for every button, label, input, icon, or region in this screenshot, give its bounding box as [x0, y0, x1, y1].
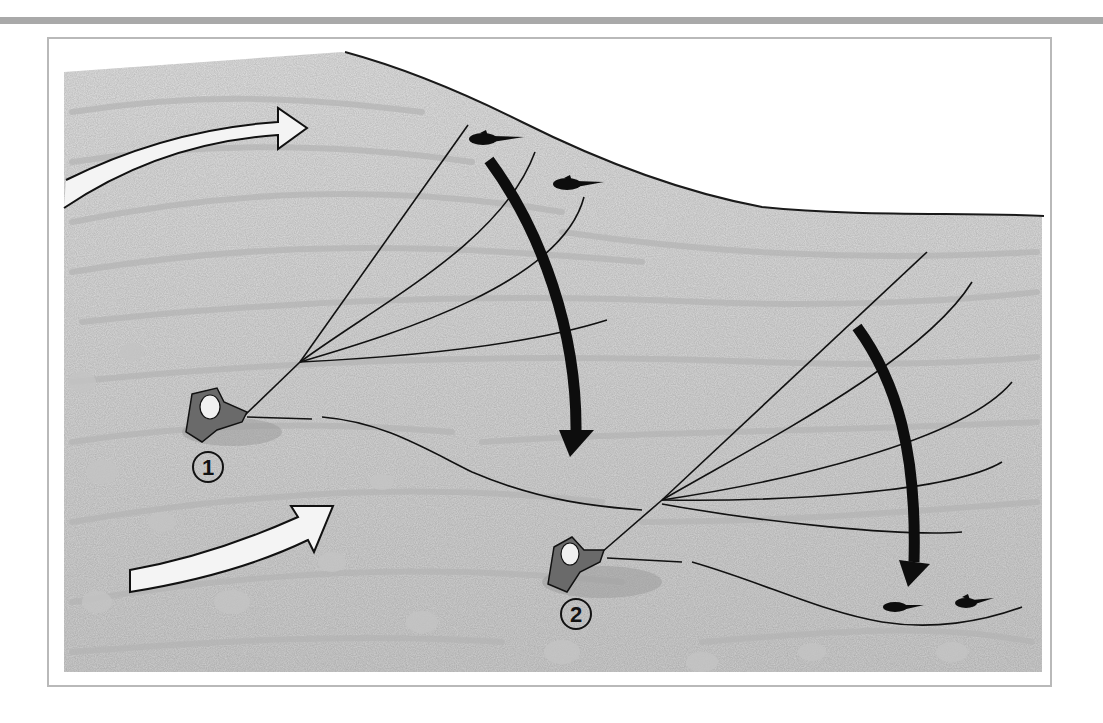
marker-label-1: 1 [202, 455, 214, 480]
top-rule [0, 17, 1103, 24]
river-illustration: 1 2 [49, 39, 1052, 687]
illustration-frame: 1 2 [47, 37, 1052, 687]
marker-label-2: 2 [570, 602, 582, 627]
